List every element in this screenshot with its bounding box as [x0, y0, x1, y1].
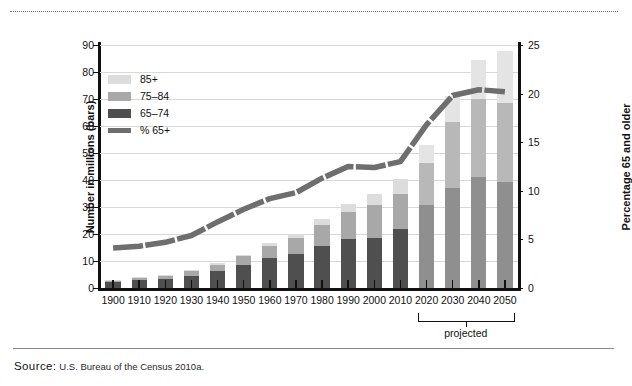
bar-group — [419, 145, 434, 288]
y-axis-right-tick-mark — [518, 45, 523, 46]
bar-segment — [497, 182, 512, 288]
bar-segment — [497, 51, 512, 102]
x-axis-tick-mark — [504, 280, 506, 289]
x-axis-tick-mark — [191, 280, 193, 289]
legend-color-swatch — [108, 109, 131, 118]
x-axis-tick-mark — [426, 280, 428, 289]
bar-segment — [445, 96, 460, 122]
bar-segment — [262, 243, 277, 245]
x-axis-tick-mark — [321, 280, 323, 289]
bar-segment — [367, 194, 382, 205]
y-axis-left-tick-label: 90 — [54, 39, 94, 51]
legend-item-label: 85+ — [140, 73, 158, 85]
x-axis-tick-mark — [112, 280, 114, 289]
x-axis-tick-mark — [217, 280, 219, 289]
y-axis-left-title: Number in millions (bars) — [84, 100, 96, 233]
legend-item: 75–84 — [108, 89, 170, 103]
x-axis-tick-label: 2050 — [485, 294, 525, 306]
bar-segment — [497, 103, 512, 182]
y-axis-right-tick-mark — [518, 288, 523, 289]
legend-item: 85+ — [108, 72, 170, 86]
y-axis-left-tick-label: 0 — [54, 282, 94, 294]
y-axis-right-tick-mark — [518, 239, 523, 240]
y-axis-left-tick-mark — [93, 45, 98, 46]
bar-group — [341, 204, 356, 288]
projected-label: projected — [416, 327, 516, 339]
x-axis-tick-mark — [165, 280, 167, 289]
x-axis-tick-mark — [269, 280, 271, 289]
right-axis-line — [518, 42, 521, 291]
y-axis-right-tick-label: 10 — [528, 185, 568, 197]
y-axis-right-tick-mark — [518, 142, 523, 143]
legend-item-label: 65–74 — [140, 107, 169, 119]
x-axis-tick-mark — [138, 280, 140, 289]
legend-item: 65–74 — [108, 106, 170, 120]
bar-segment — [445, 122, 460, 188]
legend-item-label: % 65+ — [140, 124, 170, 136]
bar-group — [497, 51, 512, 288]
bar-segment — [210, 265, 225, 271]
bar-segment — [367, 205, 382, 238]
bar-group — [445, 96, 460, 288]
source-divider — [13, 348, 614, 349]
source-label: Source: — [14, 360, 56, 372]
bar-segment — [314, 225, 329, 246]
bar-segment — [158, 275, 173, 279]
bar-segment — [236, 255, 251, 257]
bar-group — [471, 60, 486, 288]
legend-color-swatch — [108, 75, 131, 84]
y-axis-right-tick-label: 20 — [528, 88, 568, 100]
y-axis-right-tick-label: 15 — [528, 136, 568, 148]
y-axis-left-tick-mark — [93, 288, 98, 289]
source-text: U.S. Bureau of the Census 2010a. — [59, 361, 204, 372]
legend-item: % 65+ — [108, 123, 170, 137]
bar-segment — [471, 177, 486, 288]
bar-segment — [471, 99, 486, 178]
bar-segment — [184, 271, 199, 275]
bar-segment — [288, 238, 303, 254]
bar-segment — [393, 194, 408, 229]
chart-legend: 85+75–8465–74% 65+ — [108, 72, 170, 140]
x-axis-tick-mark — [243, 280, 245, 289]
top-dotted-rule — [10, 11, 618, 12]
bottom-axis-line — [98, 288, 521, 291]
source-note: Source: U.S. Bureau of the Census 2010a. — [14, 360, 204, 372]
x-axis-tick-mark — [478, 280, 480, 289]
y-axis-right-tick-mark — [518, 94, 523, 95]
bar-segment — [262, 246, 277, 258]
bar-segment — [236, 256, 251, 265]
x-axis-tick-mark — [452, 280, 454, 289]
bar-segment — [341, 204, 356, 212]
bar-segment — [419, 205, 434, 288]
y-axis-left-tick-label: 80 — [54, 66, 94, 78]
y-axis-right-tick-label: 25 — [528, 39, 568, 51]
bar-segment — [393, 179, 408, 194]
y-axis-left-tick-mark — [93, 234, 98, 235]
x-axis-tick-mark — [347, 280, 349, 289]
y-axis-left-tick-mark — [93, 261, 98, 262]
y-axis-right-title: Percentage 65 and older — [620, 103, 632, 230]
bar-segment — [471, 60, 486, 98]
bar-segment — [314, 219, 329, 225]
bar-segment — [341, 212, 356, 239]
bar-segment — [158, 275, 173, 276]
bar-segment — [132, 277, 147, 278]
legend-item-label: 75–84 — [140, 90, 169, 102]
x-axis-tick-mark — [295, 280, 297, 289]
bar-segment — [445, 188, 460, 288]
x-axis-tick-mark — [374, 280, 376, 289]
y-axis-right-tick-mark — [518, 191, 523, 192]
bar-group — [393, 179, 408, 288]
bar-segment — [288, 234, 303, 238]
bar-segment — [184, 270, 199, 271]
y-axis-left-tick-mark — [93, 72, 98, 73]
bar-segment — [419, 145, 434, 163]
legend-color-swatch — [108, 92, 131, 101]
bar-segment — [419, 163, 434, 205]
y-axis-right-tick-label: 5 — [528, 233, 568, 245]
x-axis-tick-mark — [400, 280, 402, 289]
y-axis-right-tick-label: 0 — [528, 282, 568, 294]
bar-group — [367, 194, 382, 289]
bar-segment — [210, 263, 225, 264]
